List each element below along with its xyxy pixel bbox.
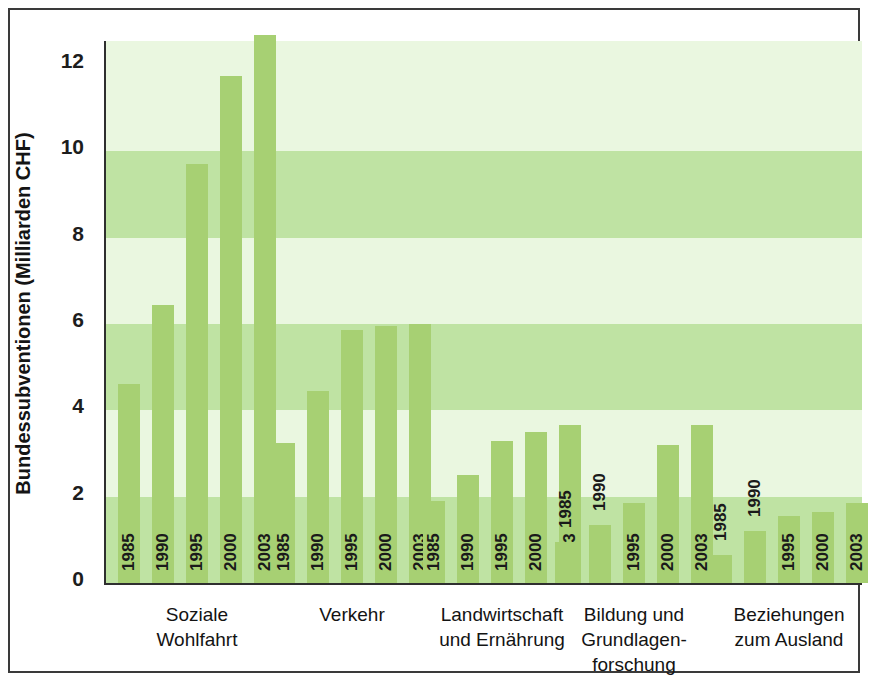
group-label-line: zum Ausland [689, 627, 870, 652]
y-tick-label-8: 8 [38, 222, 84, 246]
y-tick-label-6: 6 [38, 308, 84, 332]
group-label-line: Beziehungen [689, 602, 870, 627]
y-axis-line [104, 41, 106, 585]
bar-year-label: 1985 [555, 476, 577, 528]
bar-year-label: 2000 [657, 519, 679, 571]
bar-year-label: 2000 [220, 519, 242, 571]
bar-year-label: 1985 [710, 489, 732, 541]
bar-year-label: 1990 [744, 465, 766, 517]
bar [744, 531, 766, 583]
bar-year-label: 2000 [375, 519, 397, 571]
bar-year-label: 1995 [778, 519, 800, 571]
group-label-line: Wohlfahrt [97, 627, 297, 652]
y-tick-label-10: 10 [38, 135, 84, 159]
bar-year-label: 1995 [186, 519, 208, 571]
bar-year-label: 1995 [623, 519, 645, 571]
bar-year-label: 1995 [491, 519, 513, 571]
bar [555, 542, 577, 583]
group-label: Beziehungenzum Ausland [689, 602, 870, 652]
y-tick-label-12: 12 [38, 49, 84, 73]
bar-year-label: 2000 [525, 519, 547, 571]
bar-year-label: 1990 [589, 459, 611, 511]
x-axis-line [105, 583, 862, 585]
chart-frame: 024681012 Bundessubventionen (Milliarden… [8, 8, 860, 673]
y-tick-label-2: 2 [38, 481, 84, 505]
bar-year-label: 2003 [846, 519, 868, 571]
bar [589, 525, 611, 583]
bar [710, 555, 732, 583]
bar-year-label: 1985 [118, 519, 140, 571]
bar-year-label: 2000 [812, 519, 834, 571]
bar-year-label: 1995 [341, 519, 363, 571]
y-tick-label-4: 4 [38, 394, 84, 418]
bar-year-label: 1990 [307, 519, 329, 571]
y-axis-title: Bundessubventionen (Milliarden CHF) [12, 4, 35, 624]
bar-year-label: 1985 [423, 519, 445, 571]
group-label-line: forschung [534, 652, 734, 677]
bar-year-label: 1990 [152, 519, 174, 571]
y-tick-label-0: 0 [38, 567, 84, 591]
bar [220, 76, 242, 583]
bar-year-label: 1985 [273, 519, 295, 571]
bar-year-label: 1990 [457, 519, 479, 571]
